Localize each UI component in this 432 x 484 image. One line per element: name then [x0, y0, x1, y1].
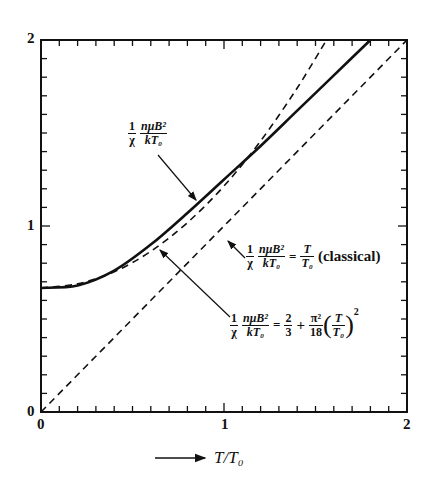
frac-T: T — [300, 243, 314, 257]
frac-two: 2 — [284, 312, 292, 326]
paren-close: ) — [345, 310, 354, 339]
frac-num: nμB² — [242, 312, 269, 326]
frac-num: nμB² — [140, 120, 167, 134]
arrow-solid-label — [158, 155, 196, 200]
label-solid-curve: 1χ nμB²kT₀ — [128, 120, 167, 147]
classical-text: (classical) — [318, 248, 380, 264]
x-tick-2: 2 — [403, 416, 411, 433]
label-classical-line: 1χ nμB²kT₀ = TT₀ (classical) — [246, 243, 380, 270]
frac-eighteen: 18 — [309, 326, 323, 339]
frac-T0: T₀ — [332, 326, 346, 339]
y-tick-2: 2 — [27, 30, 35, 47]
x-axis-label: T/T₀ — [214, 448, 244, 468]
frac-one: 1 — [246, 243, 254, 257]
x-tick-0: 0 — [37, 416, 45, 433]
exponent-two: 2 — [354, 306, 359, 317]
paren-open: ( — [323, 310, 332, 339]
y-tick-1: 1 — [27, 217, 35, 234]
frac-one: 1 — [230, 312, 238, 326]
arrow-quadratic-label — [160, 250, 230, 317]
chart-canvas — [0, 0, 432, 484]
plus-sign: + — [296, 317, 305, 333]
frac-one: 1 — [128, 120, 136, 134]
y-tick-0: 0 — [27, 403, 35, 420]
equals-sign: = — [273, 317, 280, 332]
frac-T: T — [332, 312, 346, 326]
frac-den: kT₀ — [258, 257, 285, 270]
equals-sign: = — [289, 249, 296, 264]
frac-num: nμB² — [258, 243, 285, 257]
frac-den: kT₀ — [242, 326, 269, 339]
frac-T0: T₀ — [300, 257, 314, 270]
frac-chi: χ — [128, 134, 136, 147]
label-quadratic-curve: 1χ nμB²kT₀ = 23 + π²18(TT₀)2 — [230, 306, 359, 340]
frac-three: 3 — [284, 326, 292, 339]
frac-pi2: π² — [309, 312, 323, 326]
arrow-classical-label — [228, 241, 245, 258]
frac-chi: χ — [230, 326, 238, 339]
x-tick-1: 1 — [221, 416, 229, 433]
classical-dashed-line — [41, 40, 407, 412]
frac-chi: χ — [246, 257, 254, 270]
frac-den: kT₀ — [140, 134, 167, 147]
